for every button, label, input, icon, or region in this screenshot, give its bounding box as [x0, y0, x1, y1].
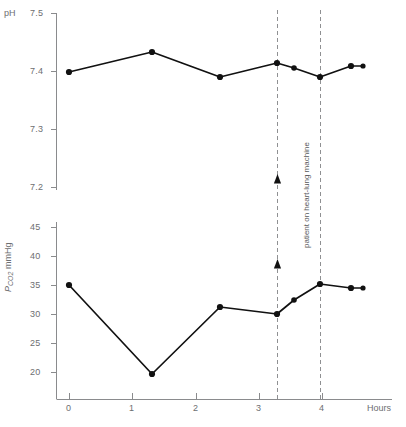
ph-tick-label: 7.3	[30, 124, 43, 134]
ph-axis-title: pH	[4, 8, 16, 18]
pco2-point	[149, 371, 155, 377]
ph-point	[66, 69, 72, 75]
pco2-point	[360, 285, 365, 290]
pco2-point	[291, 297, 297, 303]
pco2-axis-title-sub: CO	[7, 275, 14, 286]
pco2-point	[274, 311, 280, 317]
pco2-tick-label: 40	[30, 251, 40, 261]
ph-point	[360, 63, 365, 68]
x-tick-label: 0	[66, 403, 71, 413]
x-tick-label: 3	[256, 403, 261, 413]
event-arrow-upper	[274, 174, 281, 184]
x-axis	[57, 393, 393, 400]
pco2-axis-title-p: P	[3, 286, 13, 292]
ph-point	[317, 74, 323, 80]
x-tick-label: 1	[129, 403, 134, 413]
ph-point	[149, 49, 155, 55]
pco2-tick-label: 45	[30, 222, 40, 232]
clinical-ph-pco2-line-chart	[0, 0, 406, 427]
ph-point	[291, 65, 297, 71]
ph-tick-label: 7.5	[30, 8, 43, 18]
chart-figure: pH 7.5 7.4 7.3 7.2 PCO2 mmHg 45 40 35 30…	[0, 0, 406, 427]
x-tick-label: 4	[319, 403, 324, 413]
pco2-point	[217, 304, 223, 310]
pco2-point	[348, 285, 354, 291]
pco2-tick-label: 25	[30, 338, 40, 348]
pco2-tick-label: 35	[30, 280, 40, 290]
event-arrow-lower	[274, 259, 281, 269]
pco2-point	[317, 281, 323, 287]
ph-point	[217, 74, 223, 80]
pco2-axis-title: PCO2 mmHg	[3, 243, 14, 292]
pco2-point	[66, 282, 72, 288]
ph-axis	[51, 13, 57, 190]
ph-tick-label: 7.2	[30, 182, 43, 192]
pco2-tick-label: 30	[30, 309, 40, 319]
ph-line	[69, 52, 363, 77]
heart-lung-machine-annotation-label: patient on heart-lung machine	[302, 142, 311, 248]
pco2-axis	[51, 222, 57, 399]
x-tick-label: 2	[193, 403, 198, 413]
x-axis-title: Hours	[367, 403, 391, 413]
pco2-axis-title-sub2: 2	[7, 272, 14, 276]
pco2-line	[69, 284, 363, 374]
ph-tick-label: 7.4	[30, 66, 43, 76]
ph-point	[274, 60, 280, 66]
ph-point	[348, 63, 354, 69]
pco2-axis-title-unit: mmHg	[3, 243, 13, 270]
pco2-tick-label: 20	[30, 367, 40, 377]
